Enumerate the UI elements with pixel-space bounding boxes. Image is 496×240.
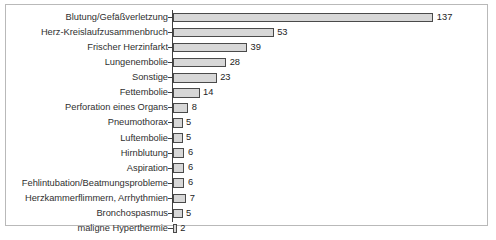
chart-rows: Blutung/Gefäßverletzung137Herz-Kreislauf… — [6, 10, 489, 222]
bar — [173, 163, 184, 173]
bar-row: Sonstige23 — [6, 70, 489, 85]
bar — [173, 178, 184, 188]
category-label: Fettembolie — [6, 85, 168, 100]
bar-and-value: 8 — [173, 100, 197, 115]
bar-and-value: 28 — [173, 55, 240, 70]
bar-value-label: 137 — [437, 13, 453, 23]
bar-value-label: 6 — [188, 148, 193, 158]
bar-value-label: 2 — [180, 224, 185, 234]
bar-and-value: 39 — [173, 40, 261, 55]
bar — [173, 13, 433, 23]
bar-and-value: 6 — [173, 161, 193, 176]
bar-row: Pneumothorax5 — [6, 115, 489, 130]
category-label: Herz-Kreislaufzusammenbruch — [6, 25, 168, 40]
category-label: Frischer Herzinfarkt — [6, 40, 168, 55]
bar-row: maligne Hyperthermie2 — [6, 221, 489, 236]
bar — [173, 224, 177, 234]
bar — [173, 118, 183, 128]
bar — [173, 88, 200, 98]
bar-and-value: 14 — [173, 85, 213, 100]
bar-value-label: 8 — [192, 103, 197, 113]
category-label: Pneumothorax — [6, 115, 168, 130]
bar-and-value: 5 — [173, 131, 191, 146]
category-label: Hirnblutung — [6, 146, 168, 161]
bar-row: Bronchospasmus5 — [6, 206, 489, 221]
category-label: Perforation eines Organs — [6, 100, 168, 115]
bar-row: Lungenembolie28 — [6, 55, 489, 70]
category-label: Lungenembolie — [6, 55, 168, 70]
bar-and-value: 2 — [173, 221, 185, 236]
chart-frame: Blutung/Gefäßverletzung137Herz-Kreislauf… — [5, 4, 488, 226]
bar-value-label: 5 — [186, 209, 191, 219]
bar-row: Hirnblutung6 — [6, 146, 489, 161]
bar-value-label: 5 — [186, 118, 191, 128]
bar — [173, 103, 188, 113]
bar-chart: Blutung/Gefäßverletzung137Herz-Kreislauf… — [0, 0, 496, 240]
bar-value-label: 7 — [190, 194, 195, 204]
bar — [173, 209, 183, 219]
bar-row: Fehlintubation/Beatmungsprobleme6 — [6, 176, 489, 191]
bar-value-label: 53 — [277, 28, 287, 38]
bar-row: Herz-Kreislaufzusammenbruch53 — [6, 25, 489, 40]
bar-row: Frischer Herzinfarkt39 — [6, 40, 489, 55]
bar-row: Perforation eines Organs8 — [6, 100, 489, 115]
bar-and-value: 137 — [173, 10, 452, 25]
bar — [173, 133, 183, 143]
bar — [173, 148, 184, 158]
category-label: Aspiration — [6, 161, 168, 176]
bar-and-value: 5 — [173, 206, 191, 221]
bar-row: Luftembolie5 — [6, 131, 489, 146]
category-label: Herzkammerflimmern, Arrhythmien — [6, 191, 168, 206]
bar-row: Fettembolie14 — [6, 85, 489, 100]
bar-value-label: 39 — [251, 43, 261, 53]
category-label: maligne Hyperthermie — [6, 221, 168, 236]
bar-value-label: 6 — [188, 163, 193, 173]
bar-value-label: 14 — [203, 88, 213, 98]
bar-row: Blutung/Gefäßverletzung137 — [6, 10, 489, 25]
bar — [173, 43, 247, 53]
bar-row: Aspiration6 — [6, 161, 489, 176]
bar-and-value: 5 — [173, 115, 191, 130]
bar-value-label: 23 — [220, 73, 230, 83]
category-label: Blutung/Gefäßverletzung — [6, 10, 168, 25]
bar-value-label: 28 — [230, 58, 240, 68]
bar-value-label: 5 — [186, 133, 191, 143]
bar — [173, 28, 274, 38]
category-label: Luftembolie — [6, 131, 168, 146]
bar-and-value: 53 — [173, 25, 288, 40]
bar-and-value: 6 — [173, 146, 193, 161]
category-label: Bronchospasmus — [6, 206, 168, 221]
bar-and-value: 23 — [173, 70, 231, 85]
category-axis-line — [172, 10, 173, 222]
bar — [173, 73, 217, 83]
bar — [173, 194, 186, 204]
bar — [173, 58, 226, 68]
bar-value-label: 6 — [188, 178, 193, 188]
bar-row: Herzkammerflimmern, Arrhythmien7 — [6, 191, 489, 206]
category-label: Sonstige — [6, 70, 168, 85]
category-label: Fehlintubation/Beatmungsprobleme — [6, 176, 168, 191]
bar-and-value: 7 — [173, 191, 195, 206]
bar-and-value: 6 — [173, 176, 193, 191]
